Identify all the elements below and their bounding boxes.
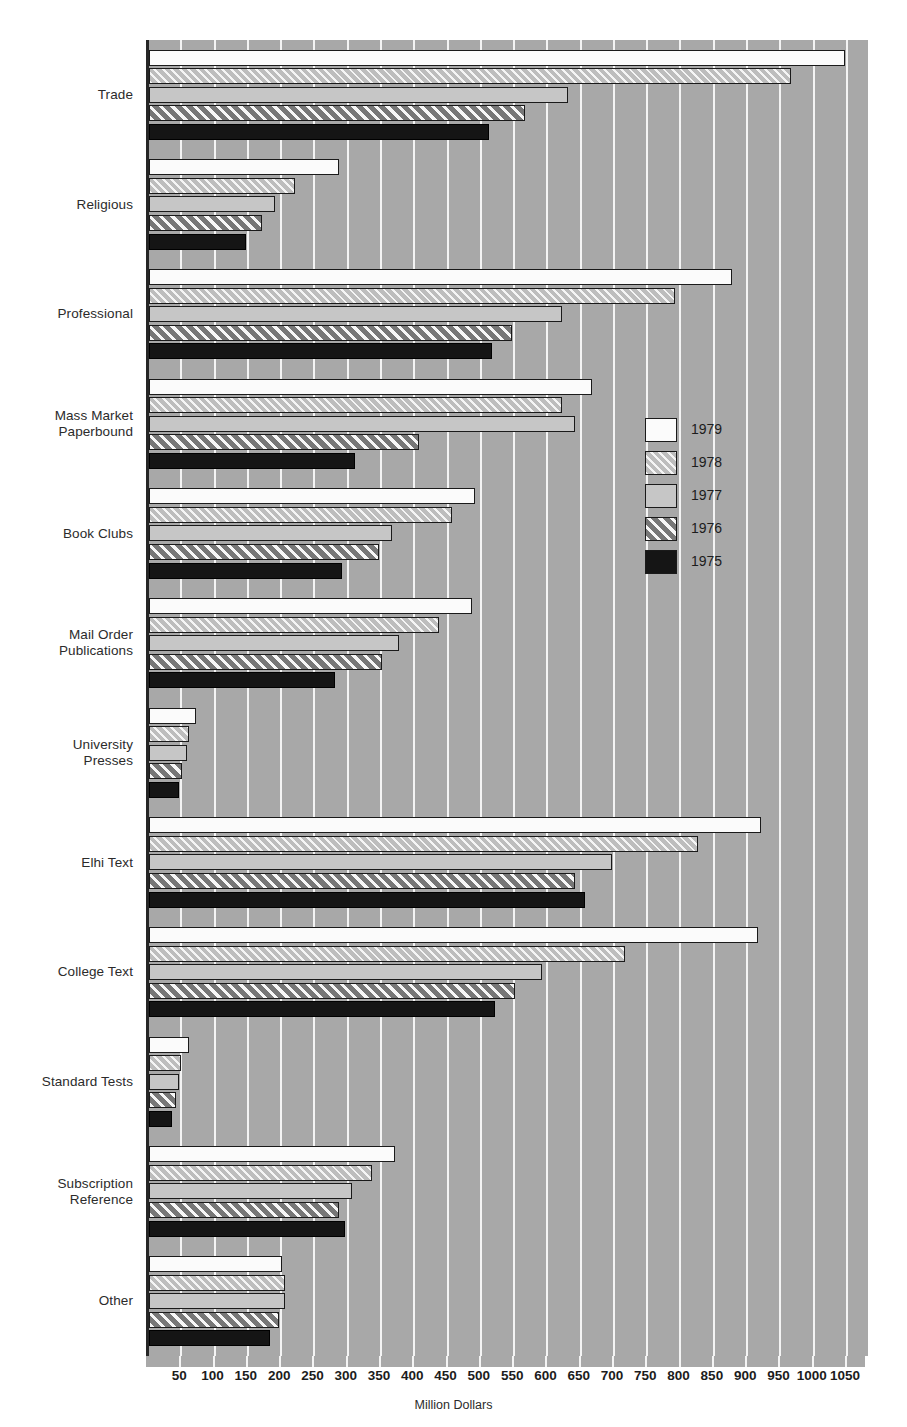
x-axis-tick [179, 1356, 181, 1367]
x-axis-ticks [146, 1356, 865, 1367]
bar [149, 325, 512, 341]
bar [149, 159, 339, 175]
x-axis-tick [279, 1356, 281, 1367]
legend-label: 1975 [691, 553, 722, 569]
bar [149, 1275, 285, 1291]
x-axis-tick [545, 1356, 547, 1367]
bar [149, 983, 515, 999]
bar-group [149, 1027, 868, 1137]
bar [149, 1312, 279, 1328]
x-axis-tick [679, 1356, 681, 1367]
category-label: Trade [8, 87, 133, 103]
legend-label: 1976 [691, 520, 722, 536]
category-label-line: Mass Market [8, 408, 133, 424]
bar [149, 1111, 172, 1127]
x-axis-tick [845, 1356, 847, 1367]
category-label-line: Paperbound [8, 424, 133, 440]
category-label-line: Trade [8, 87, 133, 103]
bar-group [149, 1246, 868, 1356]
legend-label: 1979 [691, 421, 722, 437]
bar [149, 1092, 176, 1108]
category-label-line: Subscription [8, 1176, 133, 1192]
bar [149, 434, 419, 450]
category-label: Book Clubs [8, 526, 133, 542]
x-axis-tick [312, 1356, 314, 1367]
category-label: Standard Tests [8, 1074, 133, 1090]
bar [149, 507, 452, 523]
bar [149, 1037, 189, 1053]
legend-item: 1977 [645, 484, 765, 517]
bar [149, 68, 791, 84]
bar [149, 946, 625, 962]
category-label: Religious [8, 197, 133, 213]
category-label-line: Reference [8, 1192, 133, 1208]
category-label-line: Book Clubs [8, 526, 133, 542]
x-axis-tick [778, 1356, 780, 1367]
bar-group [149, 588, 868, 698]
chart-legend: 19791978197719761975 [645, 418, 765, 583]
legend-item: 1978 [645, 451, 765, 484]
bar [149, 269, 732, 285]
bar [149, 654, 382, 670]
legend-swatch [645, 517, 677, 541]
bar [149, 563, 342, 579]
bar [149, 544, 379, 560]
x-axis-tick [745, 1356, 747, 1367]
bar [149, 672, 335, 688]
category-label-line: College Text [8, 964, 133, 980]
plot-area [146, 40, 868, 1356]
x-axis-tick-labels: 5010015020025030035040045050055060065070… [0, 1368, 907, 1388]
category-label-line: Mail Order [8, 627, 133, 643]
x-axis-tick [612, 1356, 614, 1367]
bar [149, 1221, 345, 1237]
bar [149, 234, 246, 250]
legend-item: 1976 [645, 517, 765, 550]
bar [149, 87, 568, 103]
bar-group [149, 259, 868, 369]
bar [149, 854, 612, 870]
x-axis-tick [479, 1356, 481, 1367]
bar [149, 635, 399, 651]
bar [149, 488, 475, 504]
x-axis-tick [645, 1356, 647, 1367]
bar [149, 1293, 285, 1309]
category-label: College Text [8, 964, 133, 980]
bar [149, 745, 187, 761]
bar [149, 892, 585, 908]
category-label-line: Elhi Text [8, 855, 133, 871]
category-label-line: Presses [8, 753, 133, 769]
legend-label: 1978 [691, 454, 722, 470]
category-label-line: Religious [8, 197, 133, 213]
bar [149, 525, 392, 541]
category-label-line: University [8, 737, 133, 753]
bar [149, 1330, 270, 1346]
bar [149, 763, 182, 779]
x-axis-tick [446, 1356, 448, 1367]
legend-swatch [645, 418, 677, 442]
bar [149, 397, 562, 413]
category-label-line: Other [8, 1293, 133, 1309]
bar [149, 598, 472, 614]
bar [149, 1256, 282, 1272]
bar-group [149, 1137, 868, 1247]
bar-chart: TradeReligiousProfessionalMass MarketPap… [0, 0, 907, 1427]
bar [149, 873, 575, 889]
category-label: Mail OrderPublications [8, 627, 133, 659]
bar [149, 817, 761, 833]
legend-swatch [645, 451, 677, 475]
bar [149, 178, 295, 194]
bar-group [149, 808, 868, 918]
bar [149, 343, 492, 359]
category-label: Mass MarketPaperbound [8, 408, 133, 440]
x-axis-tick [379, 1356, 381, 1367]
bar [149, 1074, 179, 1090]
bar [149, 1146, 395, 1162]
bar [149, 50, 845, 66]
legend-item: 1979 [645, 418, 765, 451]
bar [149, 1055, 181, 1071]
bar-group [149, 150, 868, 260]
category-label: Other [8, 1293, 133, 1309]
bar [149, 617, 439, 633]
category-labels: TradeReligiousProfessionalMass MarketPap… [0, 40, 133, 1356]
bar-group [149, 40, 868, 150]
